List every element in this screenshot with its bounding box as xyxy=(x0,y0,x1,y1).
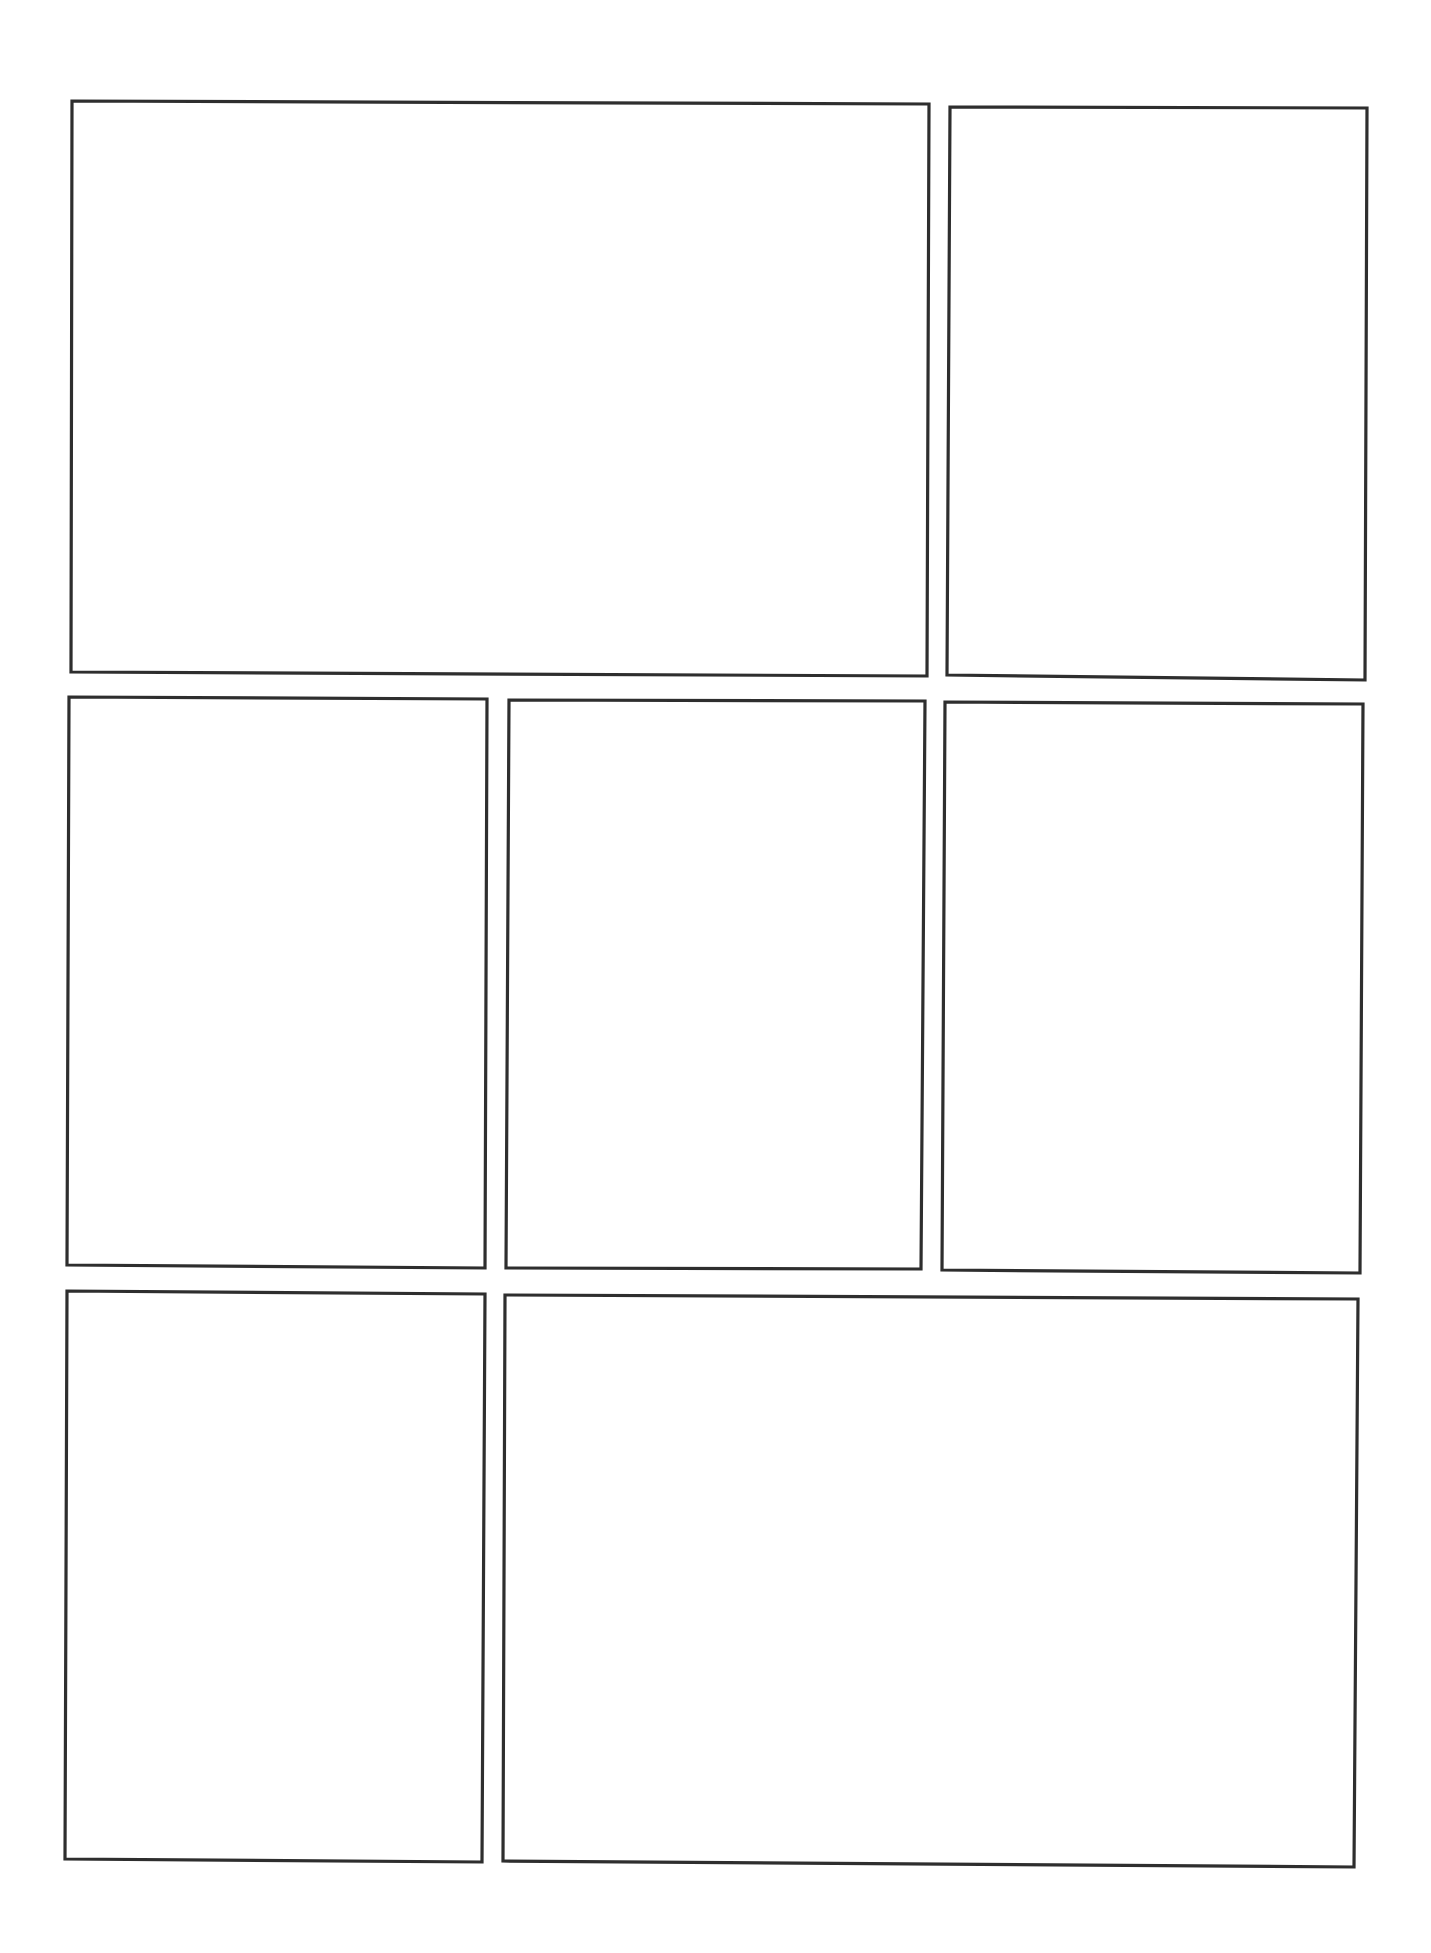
panel-4 xyxy=(506,700,925,1269)
comic-page xyxy=(0,0,1431,1953)
panel-5 xyxy=(942,702,1363,1273)
panel-6 xyxy=(65,1291,485,1862)
panel-7 xyxy=(503,1295,1358,1867)
panel-3 xyxy=(67,697,487,1268)
panel-1 xyxy=(71,101,929,676)
panel-2 xyxy=(947,107,1367,680)
